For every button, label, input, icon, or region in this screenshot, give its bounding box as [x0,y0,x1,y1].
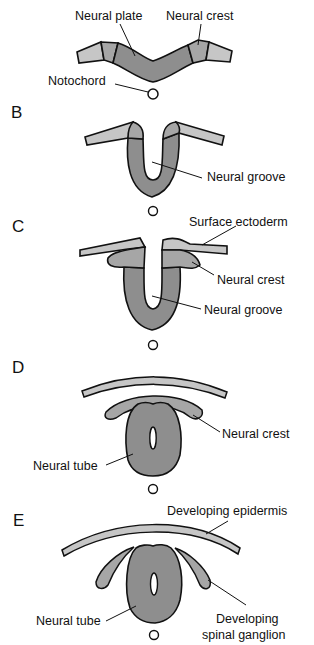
neural-crest-left [128,122,143,139]
surface-ectoderm-right [206,42,232,62]
panel-letter-d: D [12,358,24,377]
panel-e: E Developing epidermis Neural tube Dev [13,504,287,642]
leader-developing-epidermis [206,521,228,534]
label-developing-spinal-ganglion-2: spinal ganglion [202,628,285,642]
neural-crest-right [162,250,200,268]
leader-spinal-ganglion [208,580,246,605]
label-neural-crest: Neural crest [217,273,285,287]
label-surface-ectoderm: Surface ectoderm [189,215,288,229]
surface-ectoderm-left [85,122,133,145]
leader-neural-tube [106,606,136,621]
notochord-circle [149,485,158,494]
neural-canal [151,573,158,595]
panel-letter-e: E [13,511,24,530]
label-neural-tube: Neural tube [36,614,101,628]
neural-groove-body [127,133,179,197]
label-neural-crest: Neural crest [166,9,234,23]
label-neural-crest: Neural crest [222,427,290,441]
neural-plate [113,43,193,82]
leader-notochord [115,84,148,92]
panel-a: Neural plate Neural crest Notochord [48,9,234,99]
panel-d: D Neural crest Neural tube [12,358,290,494]
label-developing-epidermis: Developing epidermis [167,504,287,518]
label-neural-tube: Neural tube [33,459,98,473]
neural-canal [150,427,156,449]
panel-c: C Surface ectoderm Neural crest Neural g… [12,215,288,350]
surface-ectoderm-left [77,42,104,63]
label-neural-groove: Neural groove [207,170,286,184]
notochord-circle [149,207,158,216]
label-developing-spinal-ganglion-1: Developing [216,612,279,626]
label-notochord: Notochord [48,74,106,88]
notochord-circle [148,89,158,99]
surface-ectoderm-arc [82,377,227,398]
notochord-circle [149,341,158,350]
panel-b: B Neural groove [11,103,286,216]
leader-neural-crest [193,415,220,432]
neurulation-diagram: Neural plate Neural crest Notochord B Ne… [0,0,314,645]
panel-letter-c: C [12,217,24,236]
surface-ectoderm-right [176,122,224,145]
leader-neural-crest [192,262,214,275]
label-neural-groove: Neural groove [204,303,283,317]
label-neural-plate: Neural plate [75,9,142,23]
panel-letter-b: B [11,103,22,122]
neural-groove-body [124,267,181,330]
notochord-circle [150,631,159,640]
